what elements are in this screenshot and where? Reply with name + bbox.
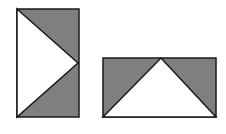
right-rectangle-figure <box>103 58 216 117</box>
left-rectangle-figure <box>17 9 79 117</box>
figure-canvas <box>0 0 226 134</box>
